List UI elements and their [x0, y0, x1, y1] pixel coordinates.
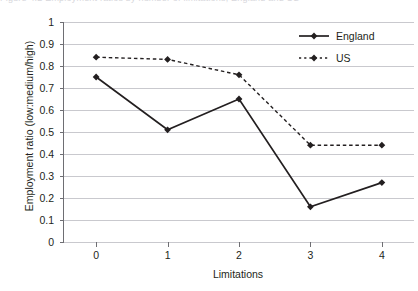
figure-employment-ratio-by-limitations: Figure 4.2 Employment ratios by number o… — [0, 0, 418, 291]
y-tick-label: 0.1 — [0, 214, 54, 226]
data-point-marker — [378, 142, 385, 149]
y-tick-mark — [60, 242, 64, 243]
x-tick-mark — [310, 242, 311, 247]
x-tick-label: 0 — [76, 249, 116, 261]
legend-item-us[interactable]: US — [297, 47, 415, 69]
y-tick-label: 0.3 — [0, 170, 54, 182]
y-tick-label: 1 — [0, 16, 54, 28]
y-tick-label: 0.7 — [0, 82, 54, 94]
data-point-marker — [164, 56, 171, 63]
x-tick-label: 2 — [219, 249, 259, 261]
data-point-marker — [378, 179, 385, 186]
legend-swatch-solid-diamond-icon — [297, 30, 331, 42]
y-tick-label: 0.2 — [0, 192, 54, 204]
x-tick-mark — [239, 242, 240, 247]
data-point-marker — [93, 54, 100, 61]
y-tick-label: 0.6 — [0, 104, 54, 116]
y-tick-label: 0.5 — [0, 126, 54, 138]
x-tick-label: 3 — [290, 249, 330, 261]
x-tick-mark — [168, 242, 169, 247]
x-axis-title: Limitations — [63, 268, 413, 280]
legend-label: England — [336, 30, 375, 42]
y-tick-label: 0.4 — [0, 148, 54, 160]
figure-caption-text: Figure 4.2 Employment ratios by number o… — [0, 0, 299, 3]
legend-item-england[interactable]: England — [297, 25, 415, 47]
y-tick-label: 0.8 — [0, 60, 54, 72]
x-tick-mark — [382, 242, 383, 247]
legend: EnglandUS — [297, 25, 415, 69]
y-tick-label: 0.9 — [0, 38, 54, 50]
legend-label: US — [336, 52, 351, 64]
x-tick-mark — [96, 242, 97, 247]
figure-caption-sliver: Figure 4.2 Employment ratios by number o… — [0, 0, 418, 9]
x-tick-label: 4 — [362, 249, 402, 261]
legend-swatch-dotted-diamond-icon — [297, 52, 331, 64]
x-tick-label: 1 — [148, 249, 188, 261]
y-tick-label: 0 — [0, 236, 54, 248]
